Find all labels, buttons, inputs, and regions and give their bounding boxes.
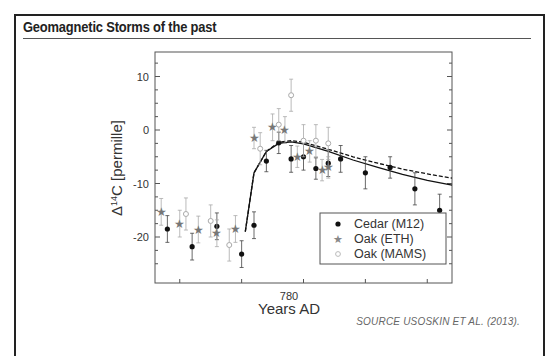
legend-cedar-label: Cedar (M12) bbox=[354, 217, 424, 231]
x-axis-label: Years AD bbox=[258, 300, 320, 317]
cedar-point bbox=[412, 186, 417, 191]
legend-oak-eth-marker: ★ bbox=[333, 233, 343, 245]
oak-eth-point: ★ bbox=[230, 222, 241, 236]
legend-oak-eth-label: Oak (ETH) bbox=[354, 232, 414, 246]
oak-eth-point: ★ bbox=[193, 223, 204, 237]
oak-mams-point bbox=[276, 122, 281, 127]
cedar-point bbox=[165, 226, 170, 231]
cedar-point bbox=[437, 208, 442, 213]
legend: Cedar (M12) ★ Oak (ETH) Oak (MAMS) bbox=[320, 213, 446, 264]
oak-eth-point: ★ bbox=[211, 226, 222, 240]
oak-mams-point bbox=[313, 138, 318, 143]
oak-eth-point: ★ bbox=[292, 150, 303, 164]
y-tick-label: 0 bbox=[143, 124, 149, 136]
y-axis-label: Δ14C [permille] bbox=[108, 120, 125, 216]
y-tick-label: -20 bbox=[133, 231, 149, 243]
source-caption: SOURCE USOSKIN ET AL. (2013). bbox=[356, 316, 520, 327]
x-axis-ticks bbox=[180, 279, 428, 283]
cedar-point bbox=[363, 170, 368, 175]
cedar-point bbox=[338, 156, 343, 161]
oak-eth-point: ★ bbox=[156, 205, 167, 219]
cedar-point bbox=[190, 244, 195, 249]
oak-mams-point bbox=[326, 141, 331, 146]
oak-mams-point bbox=[227, 243, 232, 248]
legend-oak-mams-label: Oak (MAMS) bbox=[354, 247, 426, 261]
oak-mams-point bbox=[258, 146, 263, 151]
oak-eth-point: ★ bbox=[304, 144, 315, 158]
oak-eth-point: ★ bbox=[267, 120, 278, 134]
oak-eth-point: ★ bbox=[323, 160, 334, 174]
oak-mams-point bbox=[208, 218, 213, 223]
cedar-point bbox=[264, 158, 269, 163]
oak-eth-point: ★ bbox=[174, 217, 185, 231]
y-tick-label: -10 bbox=[133, 178, 149, 190]
cedar-point bbox=[388, 165, 393, 170]
oak-eth-point: ★ bbox=[249, 131, 260, 145]
oak-mams-point bbox=[301, 138, 306, 143]
cedar-point bbox=[251, 223, 256, 228]
legend-cedar-marker bbox=[335, 221, 340, 226]
oak-mams-point bbox=[289, 93, 294, 98]
cedar-point bbox=[239, 252, 244, 257]
y-tick-label: 10 bbox=[137, 71, 149, 83]
oak-mams-point bbox=[183, 211, 188, 216]
